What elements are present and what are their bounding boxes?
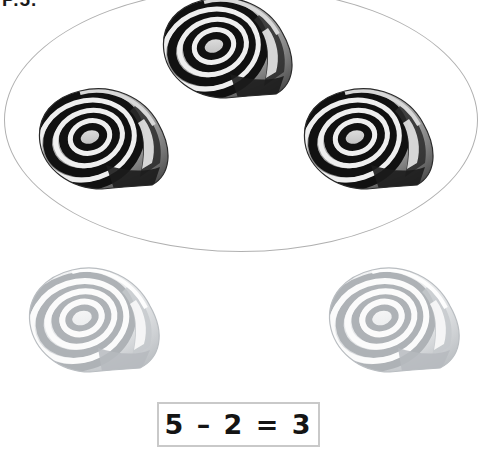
snail-shell-removed-right (318, 262, 478, 386)
page-corner-label: P.5. (2, 0, 37, 11)
snail-shell-left (28, 85, 188, 203)
equation-answer-box[interactable]: 5 – 2 = 3 (157, 402, 320, 447)
snail-shell-removed-left (18, 262, 178, 386)
snail-shell-right (293, 85, 453, 203)
worksheet-canvas: P.5. (0, 0, 485, 457)
equation-text: 5 – 2 = 3 (164, 409, 312, 440)
